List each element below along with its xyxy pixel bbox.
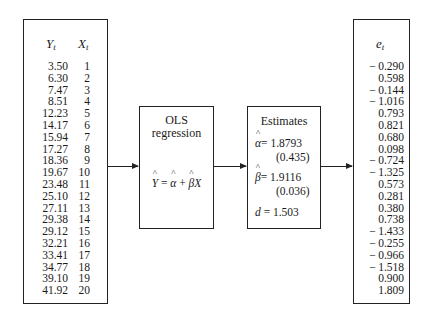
y-column-header: Yt <box>46 36 56 52</box>
x-value: 17 <box>72 250 90 262</box>
residual-value: 0.821 <box>356 120 404 132</box>
x-value: 7 <box>72 132 90 144</box>
residual-value: 0.281 <box>356 191 404 203</box>
x-value: 6 <box>72 120 90 132</box>
y-value: 6.30 <box>32 73 68 85</box>
arrow-estimates-to-residuals <box>321 166 352 167</box>
y-values-column: 3.506.307.478.5112.2314.1715.9417.2718.3… <box>32 61 68 297</box>
y-value: 32.21 <box>32 238 68 250</box>
residual-column-header: et <box>376 36 384 52</box>
alpha-std-error: (0.435) <box>276 151 310 163</box>
x-value: 2 <box>72 73 90 85</box>
alpha-estimate: α= 1.8793 <box>255 137 302 149</box>
residual-value: 0.598 <box>356 73 404 85</box>
y-value: 33.41 <box>32 250 68 262</box>
residual-values-column: 0.2900.5980.1441.0160.7930.8210.6800.098… <box>356 61 404 297</box>
x-value: 20 <box>72 285 90 297</box>
estimates-title: Estimates <box>248 114 320 129</box>
arrow-data-to-ols <box>108 166 138 167</box>
arrow-ols-to-estimates <box>214 166 246 167</box>
residual-value: 0.255 <box>356 238 404 250</box>
residual-value: 0.966 <box>356 250 404 262</box>
y-value: 14.17 <box>32 120 68 132</box>
x-values-column: 1234567891011121314151617181920 <box>72 61 90 297</box>
x-value: 11 <box>72 179 90 191</box>
estimates-box: Estimates α= 1.8793 (0.435) β= 1.9116 (0… <box>247 106 321 229</box>
x-column-header: Xt <box>78 36 88 52</box>
residual-value: 0.573 <box>356 179 404 191</box>
x-value: 16 <box>72 238 90 250</box>
ols-regression-box: OLS regression Y = α + βX <box>139 106 214 229</box>
y-value: 15.94 <box>32 132 68 144</box>
residuals-table: et 0.2900.5980.1441.0160.7930.8210.6800.… <box>353 19 410 304</box>
y-value: 25.10 <box>32 191 68 203</box>
y-value: 41.92 <box>32 285 68 297</box>
beta-std-error: (0.036) <box>276 185 310 197</box>
residual-value: 0.680 <box>356 132 404 144</box>
ols-title: OLS regression <box>140 114 213 140</box>
regression-equation: Y = α + βX <box>140 177 213 189</box>
beta-estimate: β= 1.9116 <box>255 171 301 183</box>
residual-value: 1.809 <box>356 285 404 297</box>
x-value: 12 <box>72 191 90 203</box>
durbin-watson-statistic: d = 1.503 <box>255 206 299 218</box>
y-value: 23.48 <box>32 179 68 191</box>
input-data-table: Yt Xt 3.506.307.478.5112.2314.1715.9417.… <box>23 19 108 304</box>
